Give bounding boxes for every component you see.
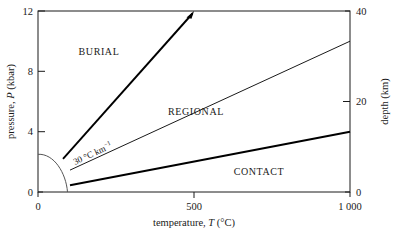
y2-tick-label-40: 40 (356, 6, 367, 17)
region-label-burial: BURIAL (79, 46, 120, 57)
burial-regional-boundary (63, 11, 194, 159)
regional-contact-boundary (70, 132, 350, 186)
x-tick-label-0: 0 (35, 201, 40, 212)
burial-boundary-arrowhead (187, 11, 195, 19)
y-tick-label-8: 8 (28, 66, 33, 77)
y-tick-label-4: 4 (28, 126, 34, 137)
x-tick-labels: 0 500 1 000 (35, 201, 361, 212)
y-tick-labels: 0 4 8 12 (23, 6, 34, 198)
region-label-contact: CONTACT (234, 166, 285, 177)
region-label-regional: REGIONAL (168, 106, 224, 117)
x-axis-title-suffix: (°C) (214, 217, 235, 229)
y2-axis-title: depth (km) (379, 78, 391, 125)
x-tick-label-1000: 1 000 (338, 201, 362, 212)
y2-tick-label-0: 0 (356, 187, 361, 198)
y-axis-title-prefix: pressure, (5, 99, 16, 139)
x-axis-title: temperature, T (°C) (153, 217, 236, 229)
x-tick-label-500: 500 (186, 201, 202, 212)
region-labels: BURIAL REGIONAL CONTACT (79, 46, 285, 177)
x-axis-ticks (38, 192, 350, 198)
near-surface-arc (38, 154, 68, 192)
y-axis-ticks (38, 11, 45, 192)
y-tick-label-12: 12 (23, 6, 34, 17)
chart-svg: 0 4 8 12 0 20 40 0 500 1 000 temperature… (0, 0, 395, 233)
geotherm-annotation-superscript: −1 (102, 139, 111, 148)
metamorphic-facies-chart: 0 4 8 12 0 20 40 0 500 1 000 temperature… (0, 0, 395, 233)
y-tick-label-0: 0 (28, 187, 33, 198)
plot-frame (38, 11, 350, 192)
y2-axis-title-text: depth (km) (379, 78, 391, 125)
y-axis-title: pressure, P (kbar) (5, 64, 17, 139)
y2-axis-ticks (343, 11, 350, 192)
y2-tick-labels: 0 20 40 (356, 6, 367, 198)
x-axis-title-prefix: temperature, (153, 217, 208, 228)
y2-tick-label-20: 20 (356, 96, 367, 107)
svg-text:pressure, P (kbar): pressure, P (kbar) (5, 64, 17, 139)
y-axis-title-suffix: (kbar) (5, 64, 17, 93)
svg-text:temperature, T (°C): temperature, T (°C) (153, 217, 236, 229)
